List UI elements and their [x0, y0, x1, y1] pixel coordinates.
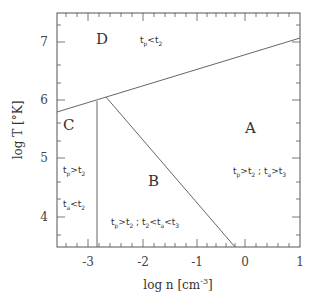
- x-tick-labels: -3 -2 -1 0 1: [82, 255, 304, 269]
- phase-diagram: -3 -2 -1 0 1 4 5 6 7 log n [cm-3] log T …: [0, 0, 316, 296]
- x-tick-label: 1: [296, 255, 304, 269]
- y-tick-labels: 4 5 6 7: [40, 35, 48, 224]
- y-axis-label: log T [°K]: [11, 101, 25, 160]
- x-axis-label: log n [cm-3]: [143, 277, 212, 292]
- y-tick-label: 7: [40, 35, 48, 49]
- region-label-d: D: [96, 30, 108, 48]
- condition-a: tp>t2 ; ta>t3: [233, 166, 286, 179]
- x-tick-label: -2: [137, 255, 149, 269]
- region-label-a: A: [244, 119, 256, 137]
- region-label-b: B: [148, 172, 159, 190]
- y-tick-label: 6: [40, 93, 48, 107]
- condition-c-second: ta<t2: [63, 199, 85, 211]
- condition-c-first: tp>t2: [63, 165, 85, 178]
- condition-b: tp>t2 ; t2<ta<t3: [111, 217, 179, 230]
- y-ticks: [57, 25, 300, 235]
- boundary-upper: [57, 38, 300, 112]
- x-tick-label: 0: [241, 255, 249, 269]
- x-tick-label: -1: [191, 255, 203, 269]
- y-tick-label: 5: [40, 151, 48, 165]
- plot-frame: [57, 13, 300, 247]
- region-label-c: C: [63, 116, 74, 134]
- x-tick-label: -3: [82, 255, 94, 269]
- condition-d: tp<t2: [140, 35, 162, 48]
- y-tick-label: 4: [40, 210, 48, 224]
